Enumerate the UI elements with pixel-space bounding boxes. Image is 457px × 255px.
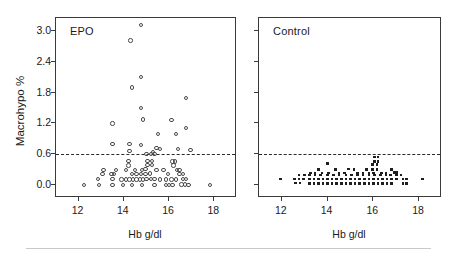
data-point — [368, 174, 371, 177]
data-point — [156, 132, 160, 136]
data-point — [313, 182, 316, 185]
y-tick-mark — [254, 184, 258, 185]
data-point — [110, 177, 114, 181]
data-point — [150, 163, 154, 167]
data-point — [402, 178, 405, 181]
data-point — [110, 183, 114, 187]
data-point — [402, 182, 405, 185]
data-point — [377, 182, 380, 185]
data-point — [298, 174, 301, 177]
x-tick-mark — [123, 197, 124, 201]
data-point — [319, 174, 322, 177]
y-tick-mark — [51, 184, 55, 185]
data-point — [386, 178, 389, 181]
data-point — [376, 168, 379, 171]
data-point — [124, 168, 128, 172]
data-point — [141, 117, 145, 121]
data-point — [340, 178, 343, 181]
x-axis-title-left: Hb g/dl — [85, 228, 205, 240]
data-point — [139, 143, 143, 147]
x-tick-mark — [168, 197, 169, 201]
data-point — [353, 168, 356, 171]
data-point — [176, 147, 180, 151]
data-point — [170, 183, 174, 187]
x-tick-mark — [213, 197, 214, 201]
y-tick-mark — [254, 61, 258, 62]
threshold-line-control — [259, 154, 440, 155]
footer-rule — [26, 248, 431, 249]
x-tick-label: 14 — [312, 204, 342, 216]
data-point — [362, 174, 365, 177]
data-point — [158, 147, 162, 151]
data-point — [326, 174, 329, 177]
data-point — [293, 178, 296, 181]
data-point — [139, 23, 143, 27]
data-point — [308, 178, 311, 181]
data-point — [181, 172, 185, 176]
data-point — [345, 182, 348, 185]
data-point — [373, 174, 376, 177]
data-point — [317, 182, 320, 185]
data-point — [139, 106, 143, 110]
data-point — [363, 182, 366, 185]
data-point — [372, 178, 375, 181]
data-point — [358, 178, 361, 181]
data-point — [158, 177, 162, 181]
data-point — [128, 38, 132, 42]
data-point — [340, 182, 343, 185]
data-point — [326, 182, 329, 185]
data-point — [368, 178, 371, 181]
data-point — [127, 149, 131, 153]
data-point — [279, 178, 282, 181]
x-tick-label: 18 — [198, 204, 228, 216]
data-point — [97, 183, 101, 187]
data-point — [314, 174, 317, 177]
data-point — [299, 182, 302, 185]
data-point — [110, 142, 114, 146]
data-point — [390, 182, 393, 185]
data-point — [169, 118, 173, 122]
x-axis-title-right: Hb g/dl — [289, 228, 409, 240]
data-point — [134, 172, 138, 176]
data-point — [354, 178, 357, 181]
y-tick-mark — [51, 92, 55, 93]
data-point — [386, 182, 389, 185]
x-tick-mark — [327, 197, 328, 201]
y-tick-mark — [51, 122, 55, 123]
y-tick-label: 2.4 — [25, 55, 51, 67]
y-tick-mark — [51, 61, 55, 62]
panel-epo: EPO — [55, 17, 236, 197]
y-tick-mark — [254, 92, 258, 93]
data-point — [152, 152, 156, 156]
y-tick-label: 0.0 — [25, 178, 51, 190]
x-tick-mark — [281, 197, 282, 201]
x-tick-mark — [78, 197, 79, 201]
data-point — [421, 178, 424, 181]
data-point — [371, 163, 374, 166]
data-point — [390, 178, 393, 181]
data-point — [110, 121, 114, 125]
data-point — [130, 85, 134, 89]
data-point — [334, 168, 337, 171]
data-point — [126, 163, 130, 167]
data-point — [161, 168, 165, 172]
data-point — [164, 177, 168, 181]
data-point — [82, 183, 86, 187]
data-point — [381, 178, 384, 181]
data-point — [358, 182, 361, 185]
data-point — [372, 182, 375, 185]
x-tick-label: 14 — [108, 204, 138, 216]
x-tick-mark — [418, 197, 419, 201]
data-point — [148, 171, 152, 175]
data-point — [347, 168, 350, 171]
x-tick-label: 16 — [357, 204, 387, 216]
data-point — [332, 174, 335, 177]
data-point — [368, 182, 371, 185]
data-point — [345, 174, 348, 177]
data-point — [331, 178, 334, 181]
y-axis: 0.00.61.21.82.43.0 — [22, 0, 51, 255]
y-tick-mark — [51, 153, 55, 154]
data-point — [140, 183, 144, 187]
data-point — [208, 183, 212, 187]
x-tick-label: 12 — [63, 204, 93, 216]
